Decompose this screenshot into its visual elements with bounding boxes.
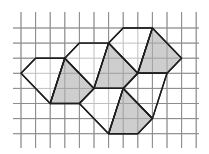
tiling-figure xyxy=(0,0,209,154)
grid-diagram xyxy=(0,0,209,154)
shapes xyxy=(21,28,182,134)
